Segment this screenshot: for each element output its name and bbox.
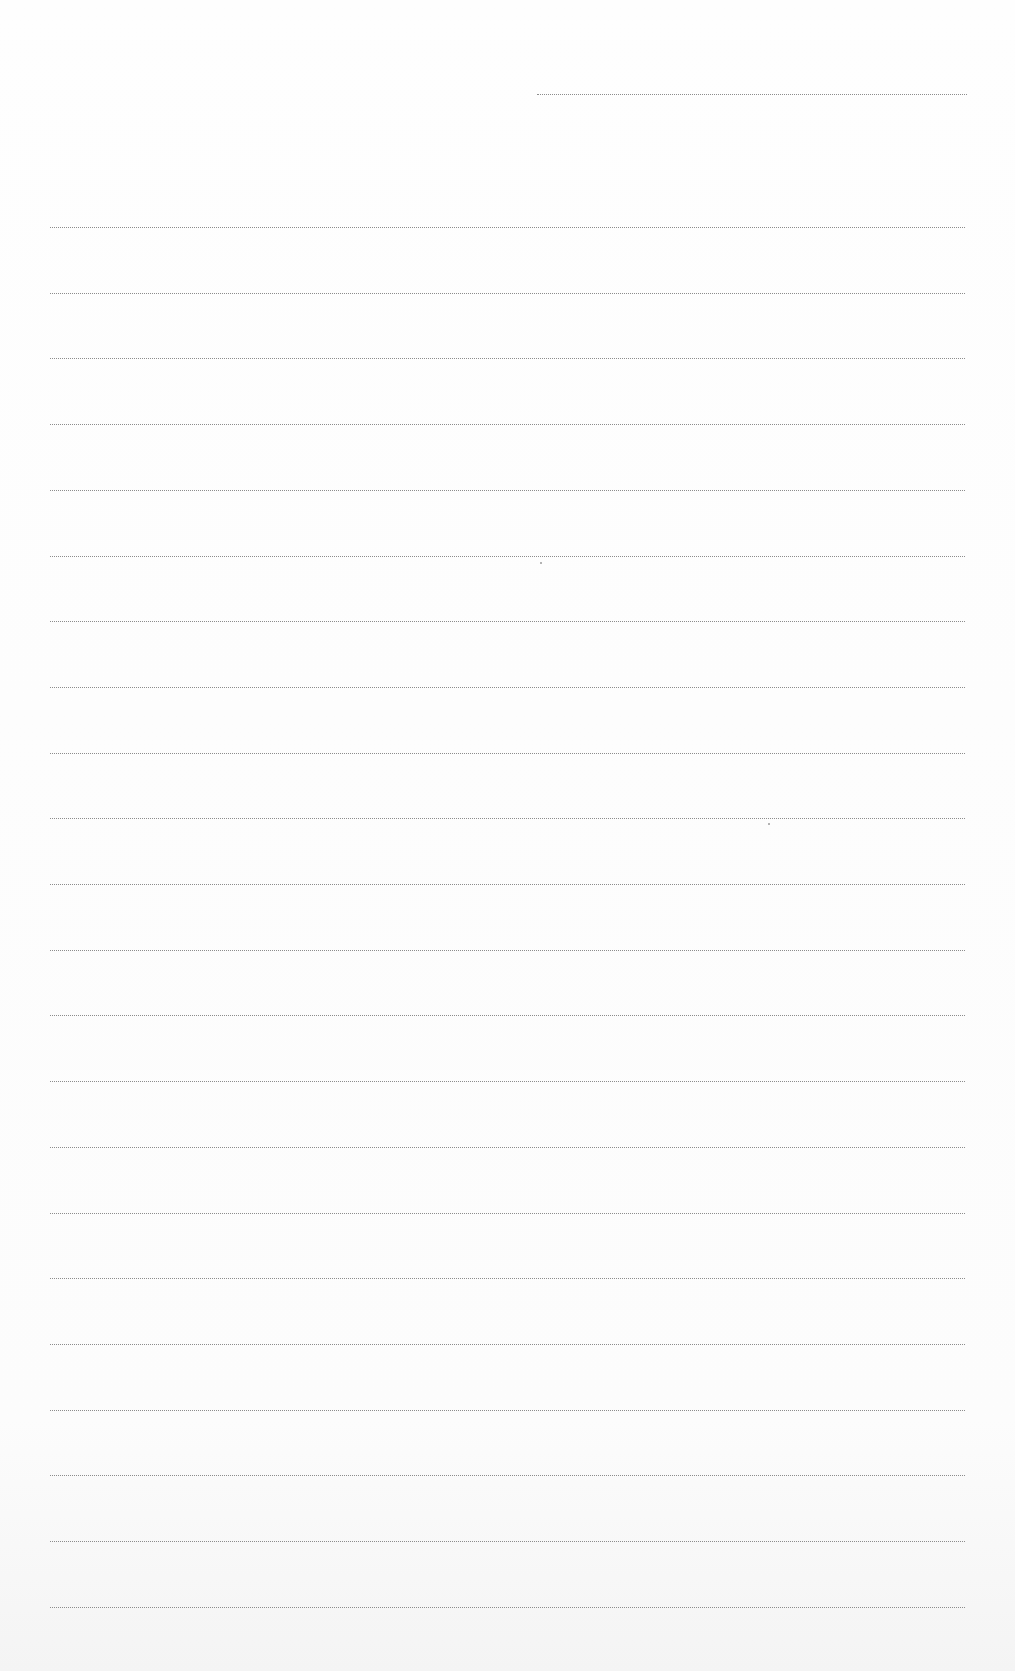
ruled-line <box>50 1475 965 1476</box>
ruled-line <box>50 1607 965 1608</box>
ruled-line <box>50 424 965 425</box>
ruled-line <box>50 556 965 557</box>
scan-speck <box>540 562 542 564</box>
ruled-line <box>50 753 965 754</box>
ruled-line <box>50 358 965 359</box>
scan-speck <box>768 823 770 825</box>
ruled-line <box>50 1213 965 1214</box>
ruled-paper-page <box>0 0 1015 1671</box>
ruled-line <box>50 1278 965 1279</box>
ruled-line <box>50 818 965 819</box>
ruled-line <box>50 1344 965 1345</box>
ruled-line <box>50 884 965 885</box>
ruled-line <box>50 1410 965 1411</box>
ruled-line <box>50 227 965 228</box>
ruled-line <box>50 621 965 622</box>
ruled-line <box>50 687 965 688</box>
ruled-line <box>50 293 965 294</box>
ruled-line <box>50 1081 965 1082</box>
ruled-line <box>50 950 965 951</box>
header-rule-line <box>537 94 967 95</box>
ruled-line <box>50 1015 965 1016</box>
ruled-line <box>50 1147 965 1148</box>
ruled-line <box>50 1541 965 1542</box>
ruled-line <box>50 490 965 491</box>
